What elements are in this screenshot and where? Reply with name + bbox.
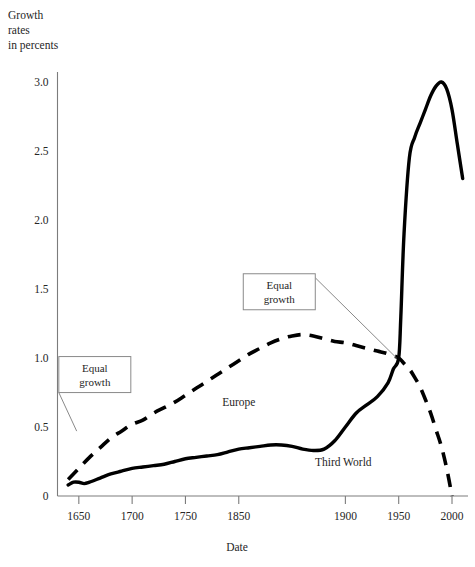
series-inline-labels: EuropeThird World xyxy=(222,396,372,467)
callout-left-line-1: Equal xyxy=(82,362,108,374)
x-axis: 1650170017501850190019502000 xyxy=(58,496,469,522)
chart-svg: 00.51.01.52.02.53.0 16501700175018501900… xyxy=(0,0,475,567)
callout-left-line-2: growth xyxy=(79,376,111,388)
y-tick-label: 2.0 xyxy=(34,214,49,226)
y-tick-label: 3.0 xyxy=(34,76,49,88)
y-axis: 00.51.01.52.02.53.0 xyxy=(34,72,57,502)
y-axis-tick-labels: 00.51.01.52.02.53.0 xyxy=(34,76,49,502)
y-axis-title: Growth rates in percents xyxy=(8,8,58,54)
series-label-third-world: Third World xyxy=(315,456,372,468)
y-axis-title-line-1: Growth xyxy=(8,8,58,23)
y-tick-label: 2.5 xyxy=(34,145,49,157)
x-axis-ticks: 1650170017501850190019502000 xyxy=(67,496,463,522)
y-tick-label: 1.5 xyxy=(34,283,49,295)
y-axis-title-line-2: rates xyxy=(8,23,58,38)
x-tick-label: 2000 xyxy=(441,510,464,522)
x-axis-title: Date xyxy=(226,541,248,553)
y-axis-title-line-3: in percents xyxy=(8,38,58,53)
x-tick-label: 1900 xyxy=(334,510,357,522)
x-tick-label: 1850 xyxy=(227,510,250,522)
y-tick-label: 0.5 xyxy=(34,421,49,433)
annotation-equal-growth-right: Equal growth xyxy=(243,274,396,358)
series-label-europe: Europe xyxy=(222,396,255,409)
x-tick-label: 1750 xyxy=(174,510,197,522)
growth-rates-chart: Growth rates in percents 00.51.01.52.02.… xyxy=(0,0,475,567)
x-tick-label: 1650 xyxy=(67,510,90,522)
x-tick-label: 1700 xyxy=(121,510,144,522)
callout-right-line-1: Equal xyxy=(266,279,292,291)
annotation-equal-growth-left: Equal growth xyxy=(59,357,131,432)
y-tick-label: 1.0 xyxy=(34,352,49,364)
y-tick-label: 0 xyxy=(43,490,49,502)
leader-line-left xyxy=(59,393,77,432)
callout-right-line-2: growth xyxy=(264,293,296,305)
x-tick-label: 1950 xyxy=(387,510,410,522)
